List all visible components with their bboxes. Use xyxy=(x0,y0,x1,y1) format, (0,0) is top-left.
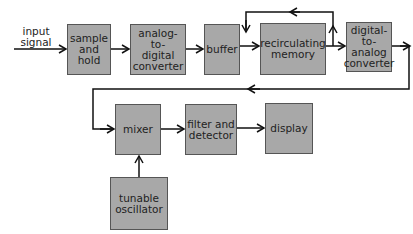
input-signal-label: input signal xyxy=(14,26,58,48)
tunable-oscillator-block: tunable oscillator xyxy=(110,177,168,230)
buffer-block: buffer xyxy=(204,24,240,75)
recirculating-memory-block: recirculating memory xyxy=(260,23,326,75)
dac-block: digital- to- analog converter xyxy=(346,22,392,72)
sample-and-hold-block: sample and hold xyxy=(67,24,111,75)
mixer-block: mixer xyxy=(115,104,161,155)
display-block: display xyxy=(265,103,313,154)
adc-block: analog-to- digital converter xyxy=(130,24,186,75)
filter-detector-block: filter and detector xyxy=(185,104,237,155)
signal-processing-block-diagram: input signal sample and hold analog-to- … xyxy=(0,0,413,234)
